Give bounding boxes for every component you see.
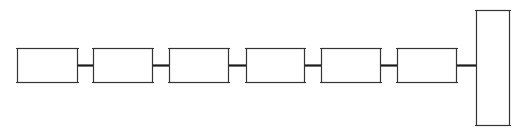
tall-box bbox=[475, 11, 511, 126]
box-2 bbox=[92, 49, 154, 83]
box-4 bbox=[245, 49, 306, 83]
box-1 bbox=[16, 49, 79, 83]
box-6-rect bbox=[398, 49, 457, 83]
tall-box-rect bbox=[477, 11, 510, 126]
box-1-rect bbox=[18, 49, 78, 83]
box-2-rect bbox=[94, 49, 153, 83]
box-4-rect bbox=[247, 49, 305, 83]
box-3-rect bbox=[170, 49, 229, 83]
box-6 bbox=[396, 49, 458, 83]
box-5 bbox=[320, 49, 382, 83]
chain-diagram bbox=[0, 0, 523, 134]
box-3 bbox=[168, 49, 230, 83]
box-5-rect bbox=[322, 49, 381, 83]
